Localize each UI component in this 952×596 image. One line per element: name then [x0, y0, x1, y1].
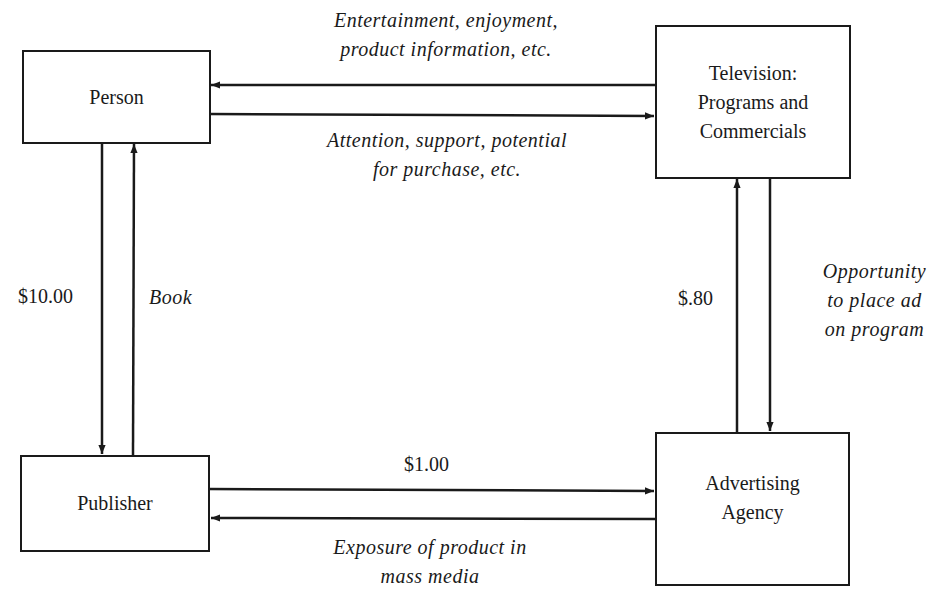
edge-label-line: Opportunity: [802, 257, 947, 286]
edge-label-person-to-tv: Attention, support, potential for purcha…: [282, 126, 612, 184]
node-television-line3: Commercials: [698, 117, 809, 146]
edge-label-line: for purchase, etc.: [282, 155, 612, 184]
arrow-agency-to-publisher: [211, 518, 655, 519]
edge-label-line: on program: [802, 315, 947, 344]
node-agency-line1: Advertising: [705, 469, 799, 498]
node-person: Person: [22, 50, 211, 144]
edge-label-line: Entertainment, enjoyment,: [296, 6, 596, 35]
edge-label-person-to-publisher: $10.00: [18, 282, 73, 311]
edge-label-line: Attention, support, potential: [282, 126, 612, 155]
edge-label-line: Exposure of product in: [290, 533, 570, 562]
edge-label-agency-to-publisher: Exposure of product in mass media: [290, 533, 570, 591]
edge-label-agency-to-tv: $.80: [678, 284, 713, 313]
node-television-line1: Television:: [698, 59, 809, 88]
edge-label-publisher-to-agency: $1.00: [404, 450, 449, 479]
node-agency-line2: Agency: [705, 498, 799, 527]
edge-label-line: to place ad: [802, 286, 947, 315]
node-television: Television: Programs and Commercials: [655, 25, 851, 179]
node-publisher: Publisher: [20, 455, 210, 552]
arrow-person-to-tv: [210, 114, 654, 116]
edge-label-line: product information, etc.: [296, 35, 596, 64]
edge-label-tv-to-person: Entertainment, enjoyment, product inform…: [296, 6, 596, 64]
node-advertising-agency: Advertising Agency: [655, 432, 850, 586]
node-publisher-label: Publisher: [77, 489, 153, 518]
arrow-publisher-to-person: [133, 144, 134, 455]
node-person-label: Person: [89, 83, 143, 112]
edge-label-line: mass media: [290, 562, 570, 591]
node-television-line2: Programs and: [698, 88, 809, 117]
arrow-publisher-to-agency: [209, 489, 654, 491]
edge-label-publisher-to-person: Book: [149, 283, 192, 312]
edge-label-tv-to-agency: Opportunity to place ad on program: [802, 257, 947, 344]
